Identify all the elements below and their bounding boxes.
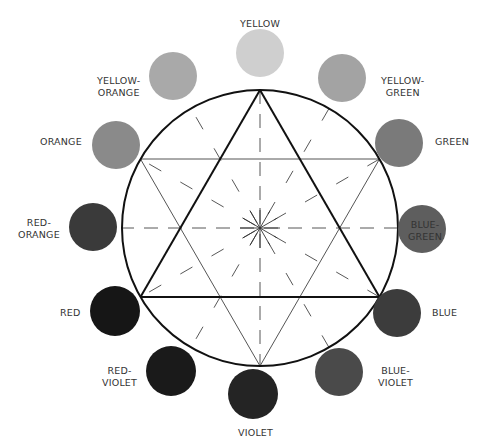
swatch-red — [90, 286, 140, 336]
label-blue: BLUE — [432, 307, 457, 319]
swatch-orange — [92, 121, 140, 169]
swatch-blue-violet — [315, 348, 363, 396]
swatch-yellow-orange — [149, 52, 197, 100]
label-red: RED — [60, 307, 81, 319]
label-yellow-green: YELLOW- GREEN — [381, 75, 424, 99]
label-yellow: YELLOW — [240, 18, 280, 30]
swatch-yellow-green — [318, 54, 366, 102]
label-yellow-orange: YELLOW- ORANGE — [97, 75, 140, 99]
label-orange: ORANGE — [40, 136, 82, 148]
label-green: GREEN — [435, 136, 469, 148]
center-star — [240, 208, 280, 248]
swatch-red-violet — [146, 346, 196, 396]
label-violet: VIOLET — [238, 427, 273, 439]
swatch-violet — [228, 369, 278, 419]
swatch-yellow — [236, 29, 284, 77]
swatch-blue — [373, 289, 421, 337]
label-red-violet: RED- VIOLET — [102, 365, 137, 389]
label-red-orange: RED- ORANGE — [18, 217, 60, 241]
label-blue-violet: BLUE- VIOLET — [378, 365, 413, 389]
swatch-green — [375, 119, 423, 167]
label-blue-green: BLUE- GREEN — [408, 219, 442, 243]
swatch-red-orange — [69, 203, 117, 251]
